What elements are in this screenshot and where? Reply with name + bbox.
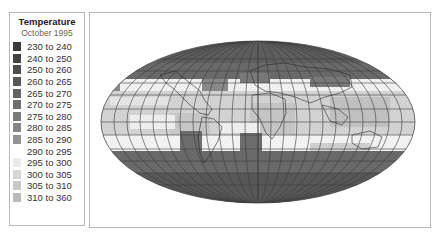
- legend-label: 265 to 270: [27, 88, 72, 99]
- legend-item: 290 to 295: [13, 145, 72, 157]
- legend-swatch: [13, 181, 21, 190]
- legend-item: 305 to 310: [13, 180, 72, 192]
- legend-item: 265 to 270: [13, 87, 72, 99]
- legend-swatch: [13, 77, 21, 86]
- legend-swatch: [13, 123, 21, 132]
- legend-item: 310 to 360: [13, 192, 72, 204]
- legend-item: 275 to 280: [13, 111, 72, 123]
- legend-swatch: [13, 54, 21, 63]
- legend-label: 295 to 300: [27, 157, 72, 168]
- legend-label: 240 to 250: [27, 53, 72, 64]
- legend-panel: Temperature October 1995 230 to 240240 t…: [9, 12, 85, 226]
- legend-subtitle: October 1995: [10, 28, 84, 38]
- legend-item: 300 to 305: [13, 169, 72, 181]
- legend-label: 250 to 260: [27, 64, 72, 75]
- legend-item: 295 to 300: [13, 157, 72, 169]
- legend-swatch: [13, 147, 21, 156]
- legend-label: 305 to 310: [27, 180, 72, 191]
- legend-label: 310 to 360: [27, 192, 72, 203]
- legend-item: 250 to 260: [13, 64, 72, 76]
- legend-swatch: [13, 42, 21, 51]
- world-temperature-map: [90, 13, 432, 229]
- globe: [90, 13, 432, 229]
- legend-label: 300 to 305: [27, 169, 72, 180]
- legend-swatch: [13, 89, 21, 98]
- legend-swatch: [13, 65, 21, 74]
- legend-label: 230 to 240: [27, 41, 72, 52]
- legend-item: 260 to 265: [13, 76, 72, 88]
- legend-item: 280 to 285: [13, 122, 72, 134]
- legend-label: 270 to 275: [27, 99, 72, 110]
- legend-swatch: [13, 193, 21, 202]
- legend-swatch: [13, 170, 21, 179]
- legend-swatch: [13, 112, 21, 121]
- legend-item: 240 to 250: [13, 53, 72, 65]
- map-panel: [89, 12, 431, 228]
- legend-label: 290 to 295: [27, 146, 72, 157]
- legend-title: Temperature: [10, 16, 84, 27]
- legend-swatch: [13, 100, 21, 109]
- legend-list: 230 to 240240 to 250250 to 260260 to 265…: [13, 41, 72, 203]
- legend-label: 280 to 285: [27, 122, 72, 133]
- legend-swatch: [13, 135, 21, 144]
- legend-label: 260 to 265: [27, 76, 72, 87]
- legend-item: 285 to 290: [13, 134, 72, 146]
- legend-item: 230 to 240: [13, 41, 72, 53]
- legend-label: 275 to 280: [27, 111, 72, 122]
- legend-label: 285 to 290: [27, 134, 72, 145]
- legend-swatch: [13, 158, 21, 167]
- legend-item: 270 to 275: [13, 99, 72, 111]
